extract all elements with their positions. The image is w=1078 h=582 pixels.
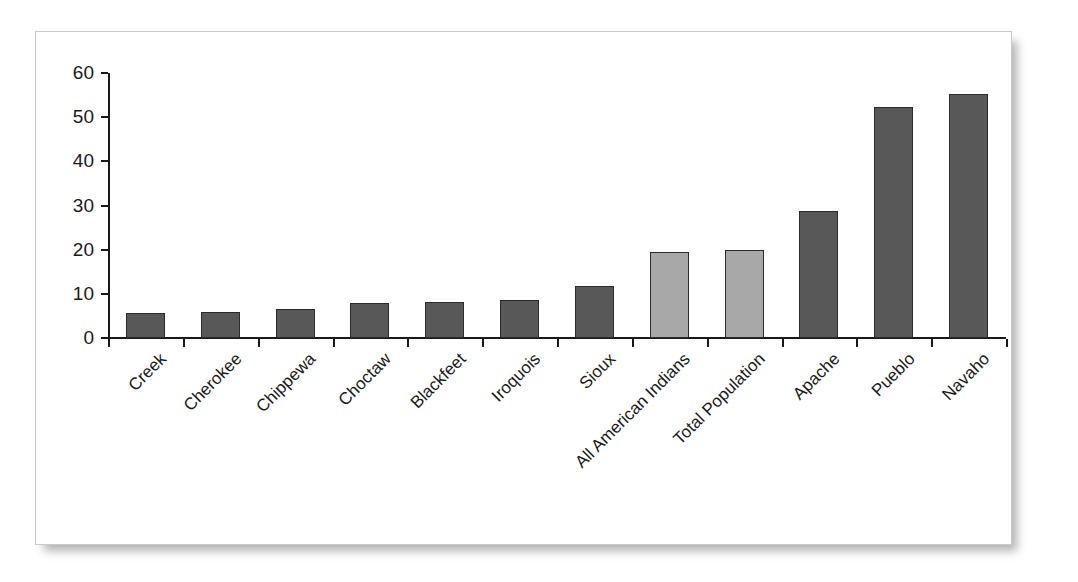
bar: [799, 211, 838, 338]
x-tick-label-text: Apache: [790, 350, 843, 403]
bar: [949, 94, 988, 338]
x-tick-label-text: Cherokee: [180, 350, 245, 415]
x-tick-mark: [782, 339, 784, 347]
bar: [425, 302, 464, 338]
y-tick-mark: [101, 160, 108, 162]
chart-figure-card: 0102030405060 CreekCherokeeChippewaChoct…: [35, 31, 1012, 545]
x-tick-label-text: Navaho: [939, 350, 993, 404]
x-tick-label-text: Chippewa: [254, 350, 320, 416]
y-tick-mark: [101, 205, 108, 207]
y-tick-label: 20: [50, 240, 94, 259]
bar: [725, 250, 764, 338]
y-tick-mark: [101, 116, 108, 118]
y-tick-mark: [101, 249, 108, 251]
x-tick-mark: [707, 339, 709, 347]
x-tick-mark: [632, 339, 634, 347]
y-tick-label: 60: [50, 63, 94, 82]
bar: [201, 312, 240, 338]
x-tick-mark: [183, 339, 185, 347]
x-tick-mark: [931, 339, 933, 347]
x-tick-mark: [1006, 339, 1008, 347]
x-tick-mark: [258, 339, 260, 347]
plot-area: 0102030405060 CreekCherokeeChippewaChoct…: [36, 32, 1013, 546]
x-tick-mark: [407, 339, 409, 347]
y-tick-label: 50: [50, 107, 94, 126]
bar: [126, 313, 165, 338]
x-tick-label-text: Iroquois: [489, 350, 544, 405]
y-tick-label: 10: [50, 284, 94, 303]
bar: [350, 303, 389, 338]
y-tick-label: 30: [50, 196, 94, 215]
bar: [500, 300, 539, 338]
x-tick-label-text: Pueblo: [868, 350, 918, 400]
bar: [276, 309, 315, 338]
y-tick-mark: [101, 72, 108, 74]
x-tick-label-text: Creek: [125, 350, 170, 395]
x-tick-label-text: Blackfeet: [407, 350, 469, 412]
x-tick-label-text: Sioux: [576, 350, 619, 393]
y-tick-mark: [101, 293, 108, 295]
x-tick-mark: [557, 339, 559, 347]
x-tick-mark: [333, 339, 335, 347]
bar: [650, 252, 689, 338]
y-tick-label: 40: [50, 151, 94, 170]
x-tick-label-text: Choctaw: [335, 350, 394, 409]
bar: [575, 286, 614, 338]
x-tick-mark: [482, 339, 484, 347]
x-tick-mark: [856, 339, 858, 347]
y-tick-mark: [101, 337, 108, 339]
y-tick-label: 0: [50, 328, 94, 347]
bar-series: [108, 73, 1006, 338]
bar: [874, 107, 913, 338]
x-tick-mark: [108, 339, 110, 347]
